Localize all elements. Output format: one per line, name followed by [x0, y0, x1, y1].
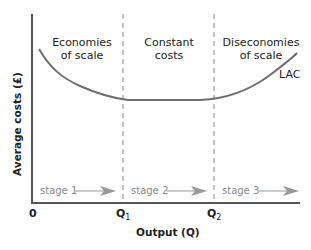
q1-tick-sub: 1	[125, 213, 130, 222]
region-constant-line2: costs	[134, 49, 204, 62]
q2-tick: Q2	[207, 207, 221, 222]
x-axis-label: Output (Q)	[136, 226, 200, 238]
region-economies-line1: Economies	[48, 36, 116, 49]
region-economies-line2: of scale	[48, 49, 116, 62]
lac-diagram: Economies of scale Constant costs Diseco…	[0, 0, 311, 250]
stage3-label: stage 3	[222, 185, 259, 197]
region-diseconomies-line1: Diseconomies	[218, 36, 304, 49]
lac-curve-label: LAC	[279, 68, 300, 81]
y-axis-label: Average costs (£)	[11, 69, 23, 179]
region-constant-label: Constant costs	[134, 36, 204, 62]
origin-tick: 0	[29, 207, 37, 220]
region-diseconomies-label: Diseconomies of scale	[218, 36, 304, 62]
q1-tick-main: Q	[116, 207, 125, 220]
q2-tick-main: Q	[207, 207, 216, 220]
q1-tick: Q1	[116, 207, 130, 222]
region-diseconomies-line2: of scale	[218, 49, 304, 62]
q2-tick-sub: 2	[216, 213, 221, 222]
region-constant-line1: Constant	[134, 36, 204, 49]
stage1-label: stage 1	[40, 185, 77, 197]
region-economies-label: Economies of scale	[48, 36, 116, 62]
stage2-label: stage 2	[131, 185, 168, 197]
